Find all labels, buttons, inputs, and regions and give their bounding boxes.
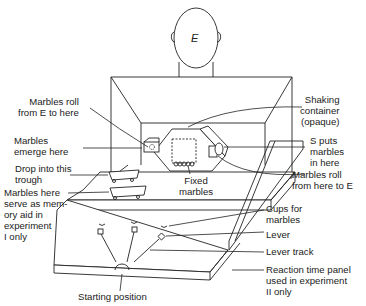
label-lever-track: Lever track [266,246,313,257]
label-memory-aid: Marbles here serve as mem- ory aid in ex… [4,187,67,242]
experimenter-label: E [191,32,199,44]
label-cups-for-marbles: Cups for marbles [266,203,302,225]
label-reaction-time-panel: Reaction time panel used in experiment I… [266,264,351,297]
label-shaking-container: Shaking container (opaque) [300,94,339,127]
label-marbles-emerge: Marbles emerge here [14,135,68,157]
label-marbles-roll-from-e: Marbles roll from E to here [18,96,79,118]
label-lever: Lever [266,229,290,240]
label-starting-position: Starting position [78,291,147,302]
label-s-puts-marbles: S puts marbles in here [310,135,344,168]
label-drop-into-trough: Drop into this trough [15,163,72,185]
label-fixed-marbles: Fixed marbles [179,175,213,197]
label-marbles-roll-to-e: Marbles roll from here to E [292,169,353,191]
